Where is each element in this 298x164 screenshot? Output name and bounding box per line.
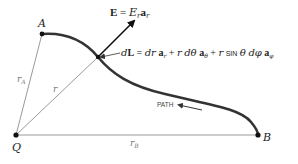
- label-rA: rA: [17, 74, 26, 85]
- line-r: [16, 57, 98, 135]
- electric-field-path-diagram: A Q B rA r rB E = Erar dL = dr ar + r dθ…: [0, 0, 298, 164]
- dl-leader-line: [101, 53, 120, 57]
- path-direction-arrow: [179, 105, 202, 110]
- point-A: [40, 32, 45, 37]
- point-B: [255, 132, 260, 137]
- point-Q: [13, 132, 18, 137]
- label-rB: rB: [130, 138, 139, 149]
- label-A: A: [37, 17, 46, 30]
- dl-equation: dL = dr ar + r dθ aθ + r SIN θ dφ aφ: [121, 47, 274, 60]
- label-Q: Q: [12, 141, 21, 154]
- point-intersection: [96, 55, 100, 59]
- line-rA: [16, 34, 42, 135]
- field-equation: E = Erar: [110, 6, 150, 20]
- label-r: r: [53, 84, 58, 94]
- label-B: B: [262, 131, 271, 144]
- path-label: PATH: [157, 101, 174, 108]
